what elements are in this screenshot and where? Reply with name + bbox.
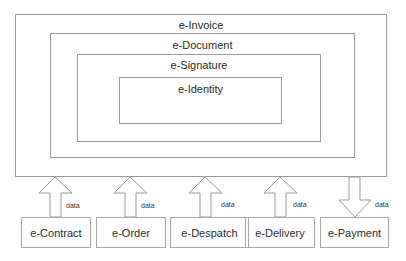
arrow-up-icon (39, 177, 72, 217)
e-contract-box: e-Contract (21, 217, 91, 248)
e-delivery-box: e-Delivery (245, 217, 315, 248)
flow-label: data (141, 202, 155, 209)
flow-label: data (221, 201, 235, 208)
e-despatch-box: e-Despatch (170, 217, 249, 248)
e-payment-box: e-Payment (320, 217, 389, 248)
flow-label: data (375, 201, 389, 208)
arrow-up-icon (114, 177, 147, 217)
flow-label: data (293, 201, 307, 208)
e-order-box: e-Order (96, 217, 166, 248)
arrow-down-icon (339, 177, 371, 217)
arrow-up-icon (189, 177, 222, 217)
arrow-up-icon (264, 177, 297, 217)
flow-label: data (66, 202, 80, 209)
